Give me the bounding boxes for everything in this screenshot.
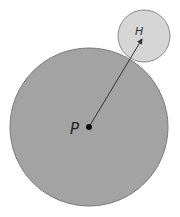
center-point-p [86,124,92,130]
circles-diagram: P H [0,0,180,217]
small-circle-h [118,10,170,62]
label-h: H [135,25,143,38]
label-p: P [70,120,80,138]
